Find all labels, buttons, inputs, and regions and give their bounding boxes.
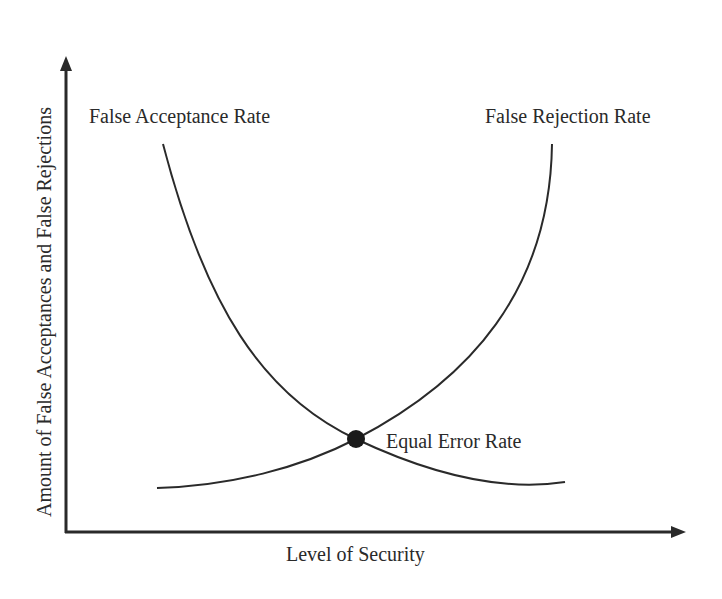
eer-point-marker [347, 430, 365, 448]
x-axis-label: Level of Security [286, 544, 425, 564]
far-curve-label: False Acceptance Rate [89, 106, 270, 126]
y-axis-arrow-icon [60, 56, 72, 71]
y-axis-label: Amount of False Acceptances and False Re… [34, 107, 54, 517]
x-axis-arrow-icon [671, 526, 686, 538]
eer-annotation-label: Equal Error Rate [386, 431, 522, 451]
frr-curve-label: False Rejection Rate [485, 106, 651, 126]
chart-canvas [0, 0, 722, 599]
